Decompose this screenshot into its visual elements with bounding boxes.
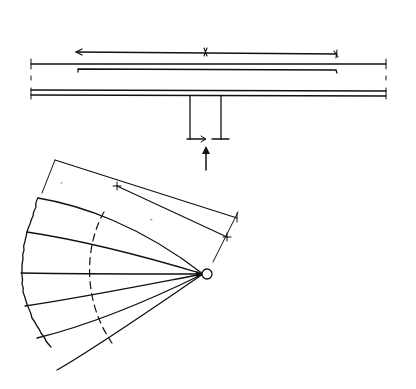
- diagram-canvas: ′ ′: [0, 0, 416, 389]
- svg-text:′: ′: [147, 217, 153, 227]
- reaction-arrow-s: [202, 146, 210, 170]
- beam-section: [31, 59, 386, 99]
- zero-moment-label: ′: [58, 181, 64, 191]
- dimension-line-c-c: [76, 48, 338, 58]
- column: [187, 96, 229, 142]
- svg-text:′: ′: [58, 181, 64, 191]
- negative-moment-label: ′: [147, 217, 153, 227]
- fan-yield-mechanism: [21, 160, 238, 370]
